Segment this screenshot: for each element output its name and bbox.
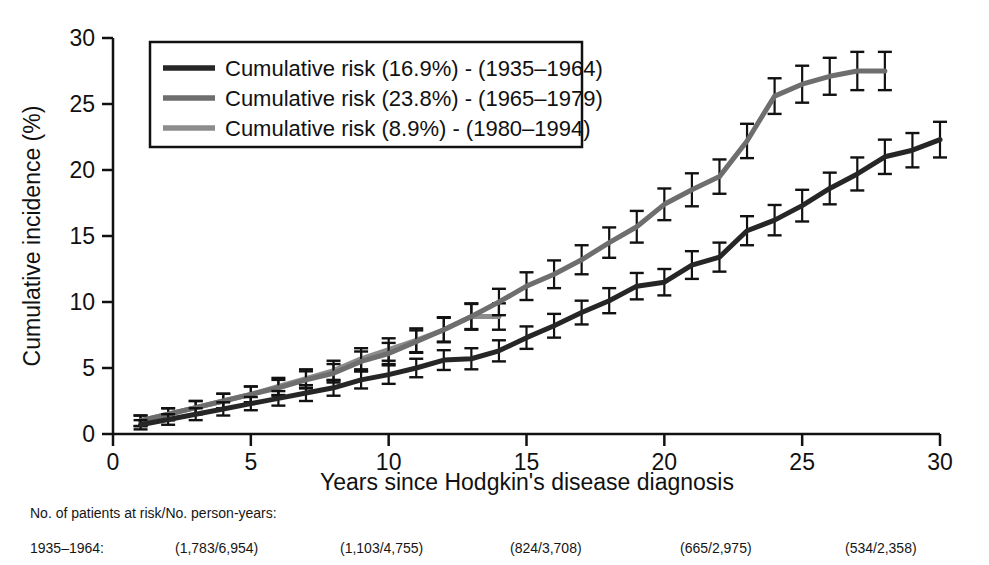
series-1 (134, 122, 947, 430)
y-axis-tick-label: 30 (69, 25, 95, 51)
legend-items: Cumulative risk (16.9%) - (1935–1964)Cum… (163, 56, 603, 141)
x-axis-tick-label: 25 (789, 449, 815, 475)
at-risk-title: No. of patients at risk/No. person-years… (30, 505, 277, 521)
series-line (141, 317, 499, 421)
y-axis-tick-labels: 051015202530 (69, 25, 95, 447)
at-risk-row-label: 1935–1964: (30, 540, 104, 556)
x-axis-tick-label: 5 (244, 449, 257, 475)
legend-label-3: Cumulative risk (8.9%) - (1980–1994) (225, 116, 591, 141)
x-axis-tick-label: 0 (107, 449, 120, 475)
y-axis-tick-label: 10 (69, 289, 95, 315)
at-risk-cell: (665/2,975) (680, 540, 752, 556)
y-axis-tick-label: 20 (69, 157, 95, 183)
at-risk-cell: (824/3,708) (510, 540, 582, 556)
y-axis-tick-label: 25 (69, 91, 95, 117)
legend-label-2: Cumulative risk (23.8%) - (1965–1979) (225, 86, 603, 111)
cumulative-incidence-chart: 051015202530 051015202530 Cumulative inc… (0, 0, 989, 505)
x-axis-ticks (113, 434, 940, 446)
legend-label-1: Cumulative risk (16.9%) - (1935–1964) (225, 56, 603, 81)
y-axis-tick-label: 15 (69, 223, 95, 249)
error-bars (134, 122, 947, 430)
y-axis-tick-label: 5 (82, 355, 95, 381)
at-risk-cell: (534/2,358) (845, 540, 917, 556)
at-risk-cell: (1,783/6,954) (175, 540, 258, 556)
at-risk-row: 1935–1964:(1,783/6,954)(1,103/4,755)(824… (30, 540, 980, 562)
chart-legend: Cumulative risk (16.9%) - (1935–1964)Cum… (150, 42, 603, 147)
x-axis-title: Years since Hodgkin's disease diagnosis (320, 469, 734, 495)
x-axis-tick-label: 30 (927, 449, 953, 475)
y-axis-title: Cumulative incidence (%) (19, 106, 45, 367)
y-axis-tick-label: 0 (82, 421, 95, 447)
at-risk-cell: (1,103/4,755) (340, 540, 423, 556)
y-axis-ticks (102, 38, 113, 434)
figure-container: 051015202530 051015202530 Cumulative inc… (0, 0, 989, 565)
